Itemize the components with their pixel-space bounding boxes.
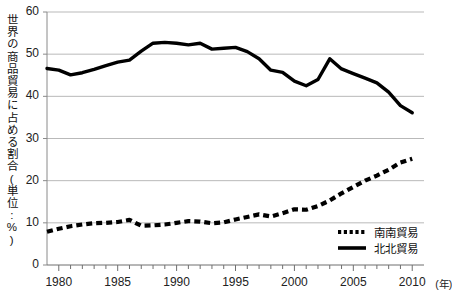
legend-item: 北北貿易 (336, 240, 418, 256)
x-axis-tick-label: 1985 (96, 275, 140, 289)
y-axis-tick-label: 40 (17, 88, 39, 102)
y-axis-tick-label: 0 (17, 257, 39, 271)
legend-swatch-dotted-icon (336, 226, 368, 238)
x-axis-tick-label: 2010 (390, 275, 434, 289)
series-line-南南貿易 (47, 159, 412, 232)
legend-item: 南南貿易 (336, 224, 418, 240)
legend-label: 南南貿易 (374, 224, 418, 240)
y-axis-tick-label: 20 (17, 173, 39, 187)
x-axis-tick-label: 2000 (272, 275, 316, 289)
y-axis-tick-label: 10 (17, 215, 39, 229)
y-axis-label: 世界の商品貿易に占める割合(単位:%) (5, 14, 17, 246)
y-axis-tick-label: 30 (17, 131, 39, 145)
x-axis-tick-label: 1980 (37, 275, 81, 289)
x-axis-tick-label: 1995 (214, 275, 258, 289)
y-axis-tick-label: 60 (17, 4, 39, 18)
legend-label: 北北貿易 (374, 240, 418, 256)
series-line-北北貿易 (47, 42, 412, 112)
y-axis-tick-label: 50 (17, 46, 39, 60)
legend-swatch-solid-icon (336, 242, 368, 254)
x-axis-tick-label: 2005 (331, 275, 375, 289)
x-axis-tick-label: 1990 (155, 275, 199, 289)
x-axis-unit-label: (年) (435, 276, 452, 291)
